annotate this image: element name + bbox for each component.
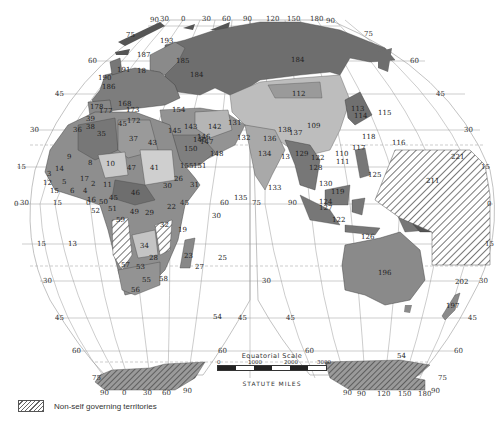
- country-number-label: 221: [451, 154, 464, 161]
- scale-units: STATUTE MILES: [217, 380, 327, 387]
- lon-label: 45: [180, 200, 189, 207]
- country-number-label: 6: [70, 188, 74, 195]
- country-number-label: 202: [455, 279, 468, 286]
- country-number-label: 4: [83, 188, 87, 195]
- tasmania: [404, 305, 412, 313]
- country-number-label: 53: [136, 264, 145, 271]
- lat-label: 45: [468, 315, 477, 322]
- country-number-label: 19: [178, 227, 187, 234]
- country-number-label: 191: [117, 67, 130, 74]
- country-number-label: 30: [212, 213, 221, 220]
- country-number-label: 41: [150, 165, 159, 172]
- country-number-label: 196: [378, 270, 391, 277]
- country-number-label: 13: [281, 154, 290, 161]
- country-number-label: 45: [118, 121, 127, 128]
- country-number-label: 114: [354, 113, 367, 120]
- lon-label: 60: [222, 16, 231, 23]
- country-number-label: 136: [263, 136, 276, 143]
- country-number-label: 47: [127, 165, 136, 172]
- lon-label: 0: [181, 16, 185, 23]
- lon-label: 60: [220, 200, 229, 207]
- country-number-label: 59: [116, 217, 125, 224]
- lon-label: 75: [252, 200, 261, 207]
- scale-tick: 1000: [248, 359, 262, 365]
- scale-title: Equatorial Scale: [217, 352, 327, 360]
- country-number-label: 177: [99, 108, 112, 115]
- scale-tick: 2000: [284, 359, 298, 365]
- kamchatka: [378, 48, 392, 72]
- country-number-label: 126: [361, 234, 374, 241]
- lon-label: 180: [310, 16, 323, 23]
- country-number-label: 49: [130, 209, 139, 216]
- country-number-label: 39: [86, 116, 95, 123]
- lat-label: 45: [238, 315, 247, 322]
- legend: Non-self governing territories: [18, 400, 157, 412]
- country-number-label: 186: [102, 84, 115, 91]
- lon-label: 120: [266, 16, 279, 23]
- lon-label: 150: [287, 16, 300, 23]
- country-number-label: 145: [168, 128, 181, 135]
- lon-label: 150: [398, 391, 411, 398]
- lat-label: 75: [438, 375, 447, 382]
- country-number-label: 2: [91, 181, 95, 188]
- lat-label: 60: [88, 58, 97, 65]
- lat-label: 15: [481, 164, 490, 171]
- country-number-label: 75: [126, 32, 135, 39]
- lon-label: 90: [431, 388, 440, 395]
- country-number-label: 46: [131, 190, 140, 197]
- lat-label: 75: [92, 375, 101, 382]
- scale-tick: 3000: [317, 359, 331, 365]
- lon-label: 30: [202, 16, 211, 23]
- lat-label: 45: [436, 91, 445, 98]
- country-number-label: 130: [319, 181, 332, 188]
- country-number-label: 143: [184, 124, 197, 131]
- lon-label: 90: [288, 200, 297, 207]
- lon-label: 90: [100, 390, 109, 397]
- country-number-label: 118: [362, 134, 375, 141]
- legend-label: Non-self governing territories: [54, 402, 157, 411]
- country-number-label: 172: [127, 118, 140, 125]
- lon-label: 30: [143, 390, 152, 397]
- country-number-label: 115: [378, 110, 391, 117]
- country-number-label: 190: [98, 75, 111, 82]
- lat-label: 30: [464, 127, 473, 134]
- lat-label: 30: [30, 127, 39, 134]
- country-number-label: 18: [137, 68, 146, 75]
- country-number-label: 184: [291, 57, 304, 64]
- lon-label: 15: [53, 200, 62, 207]
- country-number-label: 111: [336, 159, 349, 166]
- country-number-label: 109: [307, 123, 320, 130]
- country-number-label: 173: [126, 107, 139, 114]
- country-number-label: 25: [218, 255, 227, 262]
- country-number-label: 45: [109, 195, 118, 202]
- lat-label: 75: [364, 31, 373, 38]
- country-number-label: 133: [268, 185, 281, 192]
- country-number-label: 11: [103, 182, 112, 189]
- country-number-label: 5: [62, 179, 66, 186]
- lon-label: 30: [20, 200, 29, 207]
- country-number-label: 12: [43, 180, 52, 187]
- country-number-label: 193: [160, 38, 173, 45]
- lat-label: 45: [55, 315, 64, 322]
- country-number-label: 34: [140, 243, 149, 250]
- country-number-label: 148: [210, 151, 223, 158]
- country-number-label: 134: [258, 151, 271, 158]
- country-number-label: 54: [213, 314, 222, 321]
- country-number-label: 37: [129, 136, 138, 143]
- country-number-label: 197: [446, 303, 459, 310]
- country-number-label: 38: [86, 124, 95, 131]
- country-number-label: 119: [331, 189, 344, 196]
- country-number-label: 26: [174, 176, 183, 183]
- lat-label: 45: [286, 315, 295, 322]
- country-number-label: 147: [200, 139, 213, 146]
- lat-label: 45: [55, 91, 64, 98]
- country-number-label: 3: [47, 171, 51, 178]
- country-number-label: 184: [190, 72, 203, 79]
- country-number-label: 128: [309, 165, 322, 172]
- country-number-label: 117: [352, 145, 365, 152]
- country-number-label: 13: [68, 241, 77, 248]
- lon-label: 90: [150, 17, 159, 24]
- lon-label: 60: [162, 390, 171, 397]
- country-number-label: 29: [145, 210, 154, 217]
- country-number-label: 151: [193, 163, 206, 170]
